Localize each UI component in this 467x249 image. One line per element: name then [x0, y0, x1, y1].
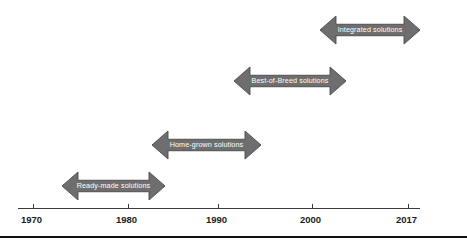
axis-label-2000: 2000: [300, 215, 321, 225]
axis-label-1980: 1980: [116, 215, 137, 225]
axis-tick-2000: [312, 204, 313, 209]
diagram-canvas: Ready-made solutionsHome-grown solutions…: [0, 0, 467, 249]
timeline-axis: 19701980199020002017: [0, 0, 467, 249]
axis-tick-1990: [218, 204, 219, 209]
axis-label-1990: 1990: [206, 215, 227, 225]
bottom-rule: [0, 236, 467, 238]
axis-tick-1980: [128, 204, 129, 209]
axis-tick-2017: [408, 204, 409, 209]
axis-tick-1970: [33, 204, 34, 209]
axis-label-1970: 1970: [21, 215, 42, 225]
axis-label-2017: 2017: [396, 215, 417, 225]
axis-line: [18, 208, 420, 209]
